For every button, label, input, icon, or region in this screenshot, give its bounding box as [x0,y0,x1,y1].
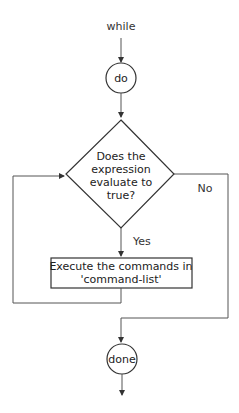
do-node: do [106,63,136,93]
start-label: while [107,20,136,33]
process-node: Execute the commands in 'command-list' [49,258,192,288]
process-line-2: 'command-list' [80,273,161,286]
done-label: done [108,353,136,366]
do-label: do [114,72,128,85]
no-label: No [198,182,213,195]
condition-line-3: evaluate to [90,176,153,189]
done-node: done [107,344,137,374]
process-line-1: Execute the commands in [49,260,192,273]
condition-line-1: Does the [96,150,145,163]
yes-label: Yes [132,235,151,248]
condition-line-2: expression [91,163,150,176]
while-loop-flowchart: while do Does the expression evaluate to… [0,0,239,413]
condition-node: Does the expression evaluate to true? [66,120,174,228]
condition-line-4: true? [107,189,136,202]
